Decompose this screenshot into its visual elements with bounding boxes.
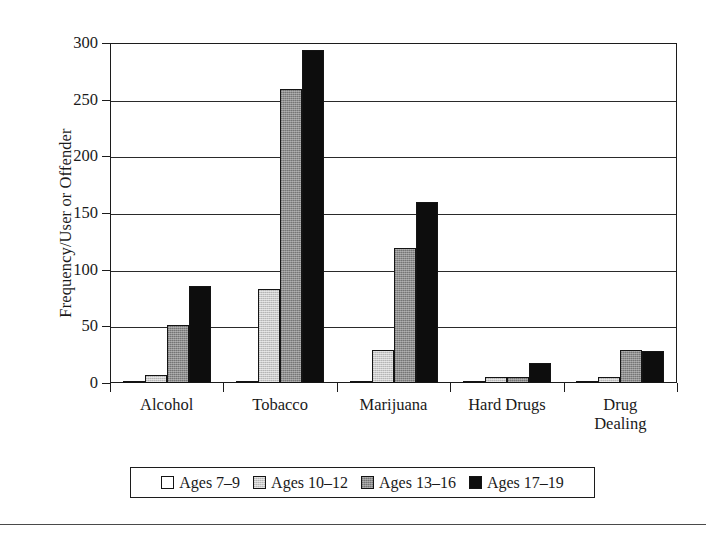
legend-label: Ages 10–12: [271, 474, 348, 492]
y-tick-label: 0: [38, 375, 98, 392]
bottom-divider: [0, 524, 706, 525]
y-tick-label: 250: [38, 91, 98, 108]
y-tick-label: 100: [38, 261, 98, 278]
gridline: [111, 214, 676, 215]
x-tick-mark: [337, 383, 338, 392]
x-axis-labels: AlcoholTobaccoMarijuanaHard DrugsDrugDea…: [110, 396, 677, 434]
y-tick-label: 200: [38, 148, 98, 165]
x-axis-label-line: Hard Drugs: [450, 396, 563, 415]
y-tick-mark: [102, 213, 110, 214]
x-axis-label-line: Drug: [564, 396, 677, 415]
x-axis-label-line: Marijuana: [337, 396, 450, 415]
legend-item[interactable]: Ages 7–9: [161, 474, 240, 492]
legend-swatch-light-gray: [253, 476, 266, 489]
legend-item[interactable]: Ages 10–12: [253, 474, 348, 492]
legend-item[interactable]: Ages 13–16: [361, 474, 456, 492]
y-tick-mark: [102, 156, 110, 157]
x-axis-label: DrugDealing: [564, 396, 677, 434]
bar-chart-figure: Frequency/User or Offender 0501001502002…: [0, 0, 706, 536]
x-tick-mark: [450, 383, 451, 392]
legend-label: Ages 13–16: [379, 474, 456, 492]
legend-swatch-white: [161, 476, 174, 489]
x-tick-mark: [564, 383, 565, 392]
legend-swatch-dark-gray: [361, 476, 374, 489]
y-tick-mark: [102, 383, 110, 384]
x-tick-mark: [110, 383, 111, 392]
x-axis-label-line: Alcohol: [110, 396, 223, 415]
x-axis-label-line: Tobacco: [223, 396, 336, 415]
x-axis-label: Marijuana: [337, 396, 450, 434]
legend-label: Ages 17–19: [487, 474, 564, 492]
gridline: [111, 157, 676, 158]
chart-legend: Ages 7–9Ages 10–12Ages 13–16Ages 17–19: [130, 467, 595, 498]
y-tick-label: 50: [38, 318, 98, 335]
x-axis-label-line: Dealing: [564, 415, 677, 434]
x-tick-mark: [223, 383, 224, 392]
y-tick-mark: [102, 43, 110, 44]
gridline: [111, 271, 676, 272]
legend-label: Ages 7–9: [179, 474, 240, 492]
y-tick-label: 150: [38, 205, 98, 222]
y-tick-mark: [102, 326, 110, 327]
y-tick-label: 300: [38, 35, 98, 52]
gridline: [111, 101, 676, 102]
legend-item[interactable]: Ages 17–19: [469, 474, 564, 492]
y-tick-mark: [102, 270, 110, 271]
legend-swatch-black: [469, 476, 482, 489]
gridline: [111, 327, 676, 328]
x-axis-label: Tobacco: [223, 396, 336, 434]
x-tick-mark: [677, 383, 678, 392]
y-tick-mark: [102, 100, 110, 101]
x-axis-label: Alcohol: [110, 396, 223, 434]
plot-area: [110, 43, 677, 383]
x-axis-label: Hard Drugs: [450, 396, 563, 434]
